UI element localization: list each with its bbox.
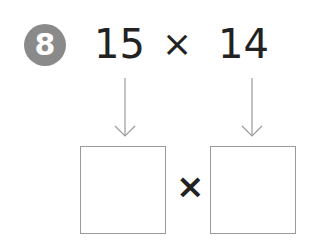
answer-box-left[interactable] <box>80 146 166 234</box>
problem-number-badge: 8 <box>24 24 66 66</box>
answer-box-right[interactable] <box>210 146 296 234</box>
arrow-down-icon <box>113 76 137 140</box>
answer-multiply-sign: × <box>176 166 205 206</box>
multiply-sign: × <box>162 20 192 68</box>
arrow-down-icon <box>240 76 264 140</box>
factor-a: 15 <box>94 20 145 68</box>
factor-b: 14 <box>218 20 269 68</box>
